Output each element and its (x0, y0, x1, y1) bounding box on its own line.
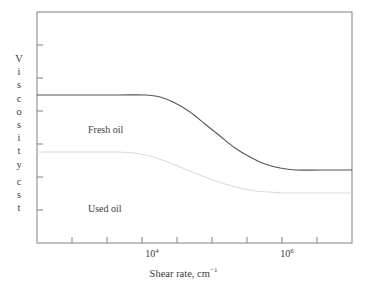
annotation-used-oil: Used oil (88, 203, 122, 214)
y-axis-title: Viscositycst (8, 52, 30, 214)
chart-figure: Viscositycst 104 106 Shear rate, cm−1 Fr… (0, 0, 367, 295)
x-tick-label-1e6: 106 (267, 247, 307, 259)
x-tick-2-mantissa: 10 (280, 248, 290, 259)
y-axis-title-letter: V (8, 52, 30, 65)
x-tick-2-exponent: 6 (290, 247, 294, 255)
x-tick-1-exponent: 4 (155, 247, 159, 255)
x-tick-label-1e4: 104 (132, 247, 172, 259)
y-axis-title-letter: s (8, 188, 30, 201)
y-axis-title-letter: i (8, 131, 30, 144)
plot-frame (37, 12, 352, 243)
y-axis-title-letter: t (8, 144, 30, 157)
x-tick-1-mantissa: 10 (145, 248, 155, 259)
y-axis-title-letter: s (8, 118, 30, 131)
y-axis-title-letter: s (8, 78, 30, 91)
y-axis-title-letter: o (8, 105, 30, 118)
y-axis-title-letter: c (8, 92, 30, 105)
y-axis-title-letter: c (8, 175, 30, 188)
annotation-fresh-oil: Fresh oil (88, 124, 123, 135)
x-axis-title: Shear rate, cm−1 (0, 266, 367, 279)
x-axis-title-text: Shear rate, cm (150, 268, 210, 279)
plot-area (0, 0, 367, 295)
x-axis-title-exponent: −1 (210, 266, 217, 274)
y-axis-title-letter: i (8, 65, 30, 78)
y-axis-title-letter: t (8, 201, 30, 214)
y-axis-title-letter: y (8, 158, 30, 171)
